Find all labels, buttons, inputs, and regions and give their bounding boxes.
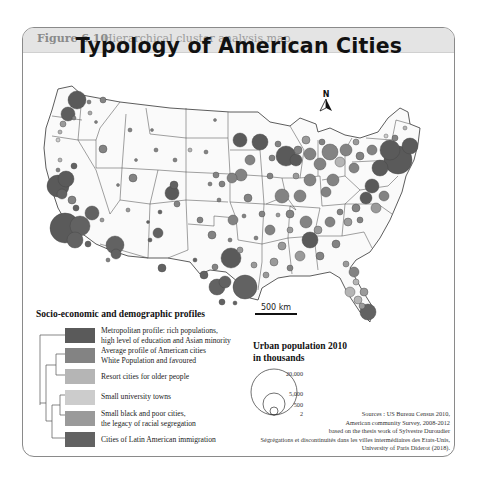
legend-label-university: Small university towns <box>101 392 171 402</box>
population-legend-title: Urban population 2010 in thousands <box>253 340 347 364</box>
legend-swatch-metropolitan <box>65 328 95 343</box>
legend-swatch-latin <box>65 432 95 447</box>
sources-text: Sources : US Bureau Census 2010, America… <box>261 410 450 453</box>
legend-swatch-university <box>65 390 95 405</box>
scale-label: 500 km <box>255 303 297 312</box>
scale-line <box>255 313 297 315</box>
legend-title: Socio-economic and demographic profiles <box>36 309 205 319</box>
legend-label-latin: Cities of Latin American immigration <box>101 435 216 445</box>
north-arrow-icon <box>318 98 334 118</box>
scale-bar: 500 km <box>255 303 297 315</box>
dendrogram <box>30 325 66 455</box>
us-map <box>0 0 478 478</box>
legend-label-segregation: Small black and poor cities, the legacy … <box>101 409 196 428</box>
pop-value-500: 500 <box>263 401 303 408</box>
legend-swatch-average <box>65 348 95 363</box>
pop-value-20000: 20,000 <box>263 370 303 377</box>
legend-label-resort: Resort cities for older people <box>101 372 189 382</box>
legend-label-average: Average profile of American cities White… <box>101 346 206 365</box>
legend-label-metropolitan: Metropolitan profile: rich populations, … <box>101 326 231 345</box>
legend-swatch-segregation <box>65 411 95 426</box>
pop-value-5000: 5,000 <box>263 390 303 397</box>
legend-swatch-resort <box>65 369 95 384</box>
